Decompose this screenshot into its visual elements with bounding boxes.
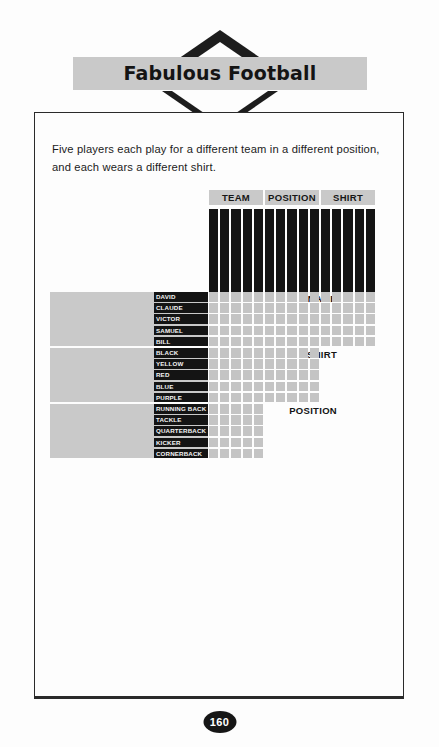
- grid-cell[interactable]: [265, 382, 274, 392]
- grid-cell[interactable]: [231, 326, 240, 336]
- grid-cell[interactable]: [265, 359, 274, 369]
- grid-cell[interactable]: [231, 359, 240, 369]
- grid-cell[interactable]: [209, 449, 218, 459]
- grid-cell[interactable]: [220, 314, 229, 324]
- grid-cell[interactable]: [254, 404, 263, 414]
- grid-cell[interactable]: [287, 326, 296, 336]
- grid-cell[interactable]: [321, 303, 330, 313]
- grid-cell[interactable]: [209, 292, 218, 302]
- grid-cell[interactable]: [220, 303, 229, 313]
- grid-cell[interactable]: [243, 303, 252, 313]
- grid-cell[interactable]: [243, 404, 252, 414]
- grid-cell[interactable]: [243, 449, 252, 459]
- grid-cell[interactable]: [287, 370, 296, 380]
- grid-cell[interactable]: [265, 326, 274, 336]
- grid-cell[interactable]: [254, 292, 263, 302]
- grid-cell[interactable]: [243, 292, 252, 302]
- grid-cell[interactable]: [265, 348, 274, 358]
- grid-cell[interactable]: [243, 326, 252, 336]
- grid-cell[interactable]: [243, 337, 252, 347]
- grid-cell[interactable]: [231, 426, 240, 436]
- grid-cell[interactable]: [332, 314, 341, 324]
- grid-cell[interactable]: [220, 438, 229, 448]
- grid-cell[interactable]: [343, 326, 352, 336]
- grid-cell[interactable]: [355, 292, 364, 302]
- grid-cell[interactable]: [254, 337, 263, 347]
- grid-cell[interactable]: [321, 337, 330, 347]
- grid-cell[interactable]: [209, 326, 218, 336]
- grid-cell[interactable]: [355, 314, 364, 324]
- grid-cell[interactable]: [343, 337, 352, 347]
- grid-cell[interactable]: [254, 370, 263, 380]
- grid-cell[interactable]: [299, 393, 308, 403]
- grid-cell[interactable]: [209, 370, 218, 380]
- grid-cell[interactable]: [231, 404, 240, 414]
- grid-cell[interactable]: [220, 404, 229, 414]
- grid-cell[interactable]: [254, 382, 263, 392]
- grid-cell[interactable]: [220, 359, 229, 369]
- grid-cell[interactable]: [287, 348, 296, 358]
- grid-cell[interactable]: [276, 314, 285, 324]
- grid-cell[interactable]: [220, 415, 229, 425]
- grid-cell[interactable]: [231, 438, 240, 448]
- grid-cell[interactable]: [243, 426, 252, 436]
- grid-cell[interactable]: [276, 326, 285, 336]
- grid-cell[interactable]: [355, 337, 364, 347]
- grid-cell[interactable]: [343, 292, 352, 302]
- grid-cell[interactable]: [321, 326, 330, 336]
- grid-cell[interactable]: [310, 393, 319, 403]
- grid-cell[interactable]: [310, 370, 319, 380]
- grid-cell[interactable]: [366, 326, 375, 336]
- grid-cell[interactable]: [231, 337, 240, 347]
- grid-cell[interactable]: [287, 359, 296, 369]
- grid-cell[interactable]: [299, 359, 308, 369]
- grid-cell[interactable]: [299, 382, 308, 392]
- grid-cell[interactable]: [254, 393, 263, 403]
- grid-cell[interactable]: [243, 314, 252, 324]
- grid-cell[interactable]: [209, 359, 218, 369]
- grid-cell[interactable]: [299, 348, 308, 358]
- grid-cell[interactable]: [287, 303, 296, 313]
- grid-cell[interactable]: [366, 314, 375, 324]
- grid-cell[interactable]: [209, 426, 218, 436]
- grid-cell[interactable]: [265, 337, 274, 347]
- grid-cell[interactable]: [276, 337, 285, 347]
- grid-cell[interactable]: [220, 449, 229, 459]
- grid-cell[interactable]: [209, 348, 218, 358]
- grid-cell[interactable]: [276, 359, 285, 369]
- grid-cell[interactable]: [231, 303, 240, 313]
- grid-cell[interactable]: [366, 303, 375, 313]
- grid-cell[interactable]: [220, 426, 229, 436]
- grid-cell[interactable]: [243, 438, 252, 448]
- grid-cell[interactable]: [220, 382, 229, 392]
- grid-cell[interactable]: [310, 348, 319, 358]
- grid-cell[interactable]: [276, 292, 285, 302]
- grid-cell[interactable]: [209, 314, 218, 324]
- grid-cell[interactable]: [254, 303, 263, 313]
- grid-cell[interactable]: [209, 404, 218, 414]
- grid-cell[interactable]: [310, 337, 319, 347]
- grid-cell[interactable]: [321, 292, 330, 302]
- grid-cell[interactable]: [209, 415, 218, 425]
- grid-cell[interactable]: [220, 348, 229, 358]
- grid-cell[interactable]: [220, 292, 229, 302]
- grid-cell[interactable]: [231, 449, 240, 459]
- grid-cell[interactable]: [220, 393, 229, 403]
- grid-cell[interactable]: [209, 337, 218, 347]
- grid-cell[interactable]: [355, 326, 364, 336]
- grid-cell[interactable]: [254, 415, 263, 425]
- grid-cell[interactable]: [366, 337, 375, 347]
- grid-cell[interactable]: [299, 303, 308, 313]
- grid-cell[interactable]: [243, 393, 252, 403]
- grid-cell[interactable]: [276, 393, 285, 403]
- grid-cell[interactable]: [265, 393, 274, 403]
- grid-cell[interactable]: [310, 326, 319, 336]
- grid-cell[interactable]: [310, 314, 319, 324]
- grid-cell[interactable]: [332, 292, 341, 302]
- grid-cell[interactable]: [265, 303, 274, 313]
- grid-cell[interactable]: [287, 393, 296, 403]
- grid-cell[interactable]: [343, 303, 352, 313]
- grid-cell[interactable]: [310, 382, 319, 392]
- grid-cell[interactable]: [310, 292, 319, 302]
- grid-cell[interactable]: [299, 370, 308, 380]
